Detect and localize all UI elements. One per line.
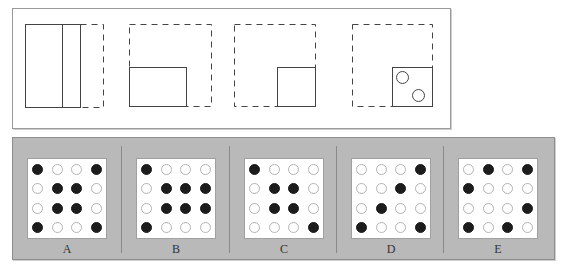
- punched-hole-icon: [463, 222, 474, 233]
- fold-1-diagram: [25, 24, 105, 109]
- punched-hole-icon: [32, 222, 43, 233]
- empty-hole-icon: [161, 222, 172, 233]
- punched-hole-icon: [71, 203, 82, 214]
- answer-options-panel: A B C D E: [12, 137, 555, 260]
- empty-hole-icon: [288, 164, 299, 175]
- punched-hole-icon: [200, 203, 211, 214]
- punched-hole-icon: [415, 222, 426, 233]
- empty-hole-icon: [483, 203, 494, 214]
- punched-hole-icon: [161, 203, 172, 214]
- empty-hole-icon: [249, 222, 260, 233]
- option-label: A: [13, 242, 121, 257]
- punched-hole-icon: [395, 183, 406, 194]
- punched-hole-icon: [161, 183, 172, 194]
- empty-hole-icon: [376, 222, 387, 233]
- empty-hole-icon: [308, 203, 319, 214]
- empty-hole-icon: [180, 222, 191, 233]
- option-label: C: [230, 242, 338, 257]
- hole-grid: [458, 158, 538, 239]
- punched-hole-icon: [269, 203, 280, 214]
- empty-hole-icon: [463, 164, 474, 175]
- empty-hole-icon: [71, 222, 82, 233]
- empty-hole-icon: [395, 222, 406, 233]
- empty-hole-icon: [141, 203, 152, 214]
- empty-hole-icon: [269, 222, 280, 233]
- option-label: D: [337, 242, 445, 257]
- punched-hole-icon: [288, 203, 299, 214]
- option-b[interactable]: B: [122, 138, 230, 259]
- empty-hole-icon: [522, 183, 533, 194]
- punched-hole-icon: [91, 222, 102, 233]
- empty-hole-icon: [288, 222, 299, 233]
- punched-hole-icon: [463, 183, 474, 194]
- empty-hole-icon: [200, 222, 211, 233]
- punched-hole-icon: [483, 164, 494, 175]
- punched-hole-icon: [269, 183, 280, 194]
- punched-hole-icon: [52, 183, 63, 194]
- punched-hole-icon: [249, 164, 260, 175]
- empty-hole-icon: [32, 203, 43, 214]
- punched-hole-icon: [180, 183, 191, 194]
- empty-hole-icon: [269, 164, 280, 175]
- option-label: E: [444, 242, 552, 257]
- empty-hole-icon: [180, 164, 191, 175]
- punched-hole-icon: [91, 164, 102, 175]
- fold-3-diagram: [234, 24, 318, 109]
- punched-hole-icon: [32, 164, 43, 175]
- empty-hole-icon: [502, 203, 513, 214]
- empty-hole-icon: [483, 222, 494, 233]
- empty-hole-icon: [356, 203, 367, 214]
- empty-hole-icon: [395, 203, 406, 214]
- empty-hole-icon: [502, 164, 513, 175]
- empty-hole-icon: [91, 203, 102, 214]
- hole-grid: [136, 158, 216, 239]
- punched-hole-icon: [522, 164, 533, 175]
- punched-hole-icon: [200, 183, 211, 194]
- empty-hole-icon: [502, 183, 513, 194]
- punched-hole-icon: [522, 203, 533, 214]
- punched-hole-icon: [413, 90, 425, 102]
- empty-hole-icon: [249, 183, 260, 194]
- punched-hole-icon: [288, 183, 299, 194]
- empty-hole-icon: [415, 183, 426, 194]
- hole-punch-diagram: [352, 24, 436, 109]
- empty-hole-icon: [32, 183, 43, 194]
- punched-hole-icon: [180, 203, 191, 214]
- empty-hole-icon: [52, 164, 63, 175]
- empty-hole-icon: [91, 183, 102, 194]
- punched-hole-icon: [376, 203, 387, 214]
- empty-hole-icon: [141, 183, 152, 194]
- punched-hole-icon: [52, 203, 63, 214]
- option-d[interactable]: D: [337, 138, 445, 259]
- empty-hole-icon: [395, 164, 406, 175]
- empty-hole-icon: [463, 203, 474, 214]
- empty-hole-icon: [52, 222, 63, 233]
- empty-hole-icon: [356, 183, 367, 194]
- punched-hole-icon: [502, 222, 513, 233]
- punched-hole-icon: [141, 164, 152, 175]
- punched-hole-icon: [415, 164, 426, 175]
- empty-hole-icon: [376, 164, 387, 175]
- punched-hole-icon: [308, 222, 319, 233]
- empty-hole-icon: [71, 164, 82, 175]
- empty-hole-icon: [522, 222, 533, 233]
- option-c[interactable]: C: [230, 138, 338, 259]
- empty-hole-icon: [356, 164, 367, 175]
- hole-grid: [244, 158, 324, 239]
- option-a[interactable]: A: [13, 138, 121, 259]
- empty-hole-icon: [308, 183, 319, 194]
- empty-hole-icon: [376, 183, 387, 194]
- fold-2-diagram: [129, 24, 213, 109]
- hole-grid: [351, 158, 431, 239]
- hole-grid: [27, 158, 107, 239]
- punched-hole-icon: [397, 72, 409, 84]
- empty-hole-icon: [249, 203, 260, 214]
- option-e[interactable]: E: [444, 138, 552, 259]
- empty-hole-icon: [200, 164, 211, 175]
- punched-hole-icon: [71, 183, 82, 194]
- empty-hole-icon: [308, 164, 319, 175]
- empty-hole-icon: [415, 203, 426, 214]
- option-label: B: [122, 242, 230, 257]
- empty-hole-icon: [161, 164, 172, 175]
- fold-sequence-panel: Fold 1 Fold 2 Fold 3 Hole Punch: [12, 8, 451, 129]
